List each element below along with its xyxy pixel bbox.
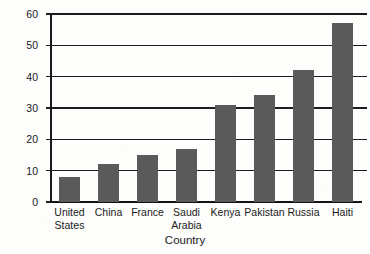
y-axis-tick-mark-right — [362, 170, 367, 172]
bar — [59, 177, 80, 202]
bar-chart-figure: Percentage of GDP 6050403020100 Country … — [0, 0, 370, 254]
y-axis-tick-mark — [46, 13, 50, 15]
y-axis-tick-label: 20 — [16, 133, 38, 145]
x-axis-tick-label-line: States — [42, 219, 98, 232]
bar — [293, 70, 314, 202]
y-axis-tick-mark — [46, 76, 50, 78]
y-axis-tick-mark-right — [362, 107, 367, 109]
x-axis-tick-label: Haiti — [315, 206, 370, 219]
gridline — [50, 170, 362, 172]
x-axis-tick-label-line: Arabia — [159, 219, 215, 232]
y-axis-tick-mark — [46, 139, 50, 141]
y-axis-tick-mark-right — [362, 45, 367, 47]
bar — [137, 155, 158, 202]
gridline — [50, 13, 362, 15]
x-axis-title: Country — [0, 234, 370, 246]
bar — [332, 23, 353, 202]
y-axis-tick-label: 0 — [16, 196, 38, 208]
y-axis-tick-mark-right — [362, 139, 367, 141]
y-axis-tick-mark — [46, 201, 50, 203]
x-axis-baseline — [50, 201, 362, 203]
plot-area: 6050403020100 — [50, 14, 362, 202]
y-axis-tick-label: 60 — [16, 8, 38, 20]
bar — [254, 95, 275, 202]
y-axis-tick-mark — [46, 107, 50, 109]
gridline — [50, 45, 362, 47]
bar — [215, 105, 236, 202]
gridline — [50, 107, 362, 109]
bar — [98, 164, 119, 202]
y-axis-tick-label: 40 — [16, 71, 38, 83]
y-axis-tick-label: 10 — [16, 165, 38, 177]
y-axis-tick-label: 50 — [16, 39, 38, 51]
gridline — [50, 139, 362, 141]
y-axis-tick-label: 30 — [16, 102, 38, 114]
y-axis-tick-mark — [46, 170, 50, 172]
y-axis-tick-mark-right — [362, 76, 367, 78]
y-axis-tick-mark — [46, 45, 50, 47]
y-axis-tick-mark-right — [362, 13, 367, 15]
x-axis-tick-label-line: Haiti — [315, 206, 370, 219]
bar — [176, 149, 197, 202]
gridline — [50, 76, 362, 78]
